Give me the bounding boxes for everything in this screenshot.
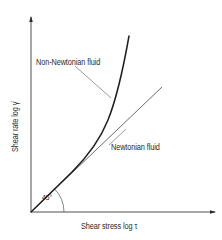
x-axis-label: Shear stress log τ: [81, 221, 137, 231]
newtonian-label: Newtonian fluid: [111, 142, 160, 152]
non-newtonian-label: Non-Newtonian fluid: [36, 57, 100, 67]
flow-curve-diagram: [0, 0, 222, 240]
y-axis-label: Shear rate log γ̇: [10, 102, 20, 152]
non-newtonian-leader: [75, 66, 111, 98]
angle-arc: [54, 189, 64, 212]
angle-label: 45°: [42, 193, 52, 203]
